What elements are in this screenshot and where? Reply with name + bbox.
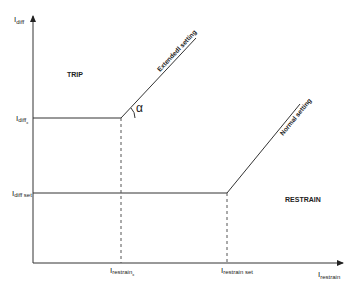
normal-setting-curve	[33, 104, 300, 193]
x-tick-irestrain-set: Irestrain set	[221, 266, 253, 275]
x-axis-label: Irestrain	[318, 270, 340, 280]
extended-setting-label: Extendedl setting	[156, 28, 199, 73]
angle-arc	[131, 108, 135, 118]
restrain-region-label: RESTRAIN	[285, 196, 321, 203]
angle-alpha-label: α	[136, 101, 143, 115]
trip-region-label: TRIP	[67, 71, 83, 78]
y-tick-idiff-set: Idiff set	[12, 189, 32, 198]
characteristic-diagram: Idiff Irestrain Idiffx Idiff set Irestra…	[0, 0, 352, 287]
normal-setting-label: Normal setting	[278, 97, 313, 137]
y-tick-idiff-x: Idiffx	[16, 114, 28, 125]
y-axis-label: Idiff	[14, 15, 24, 25]
x-tick-irestrain-x: Irestrainx	[110, 266, 134, 277]
